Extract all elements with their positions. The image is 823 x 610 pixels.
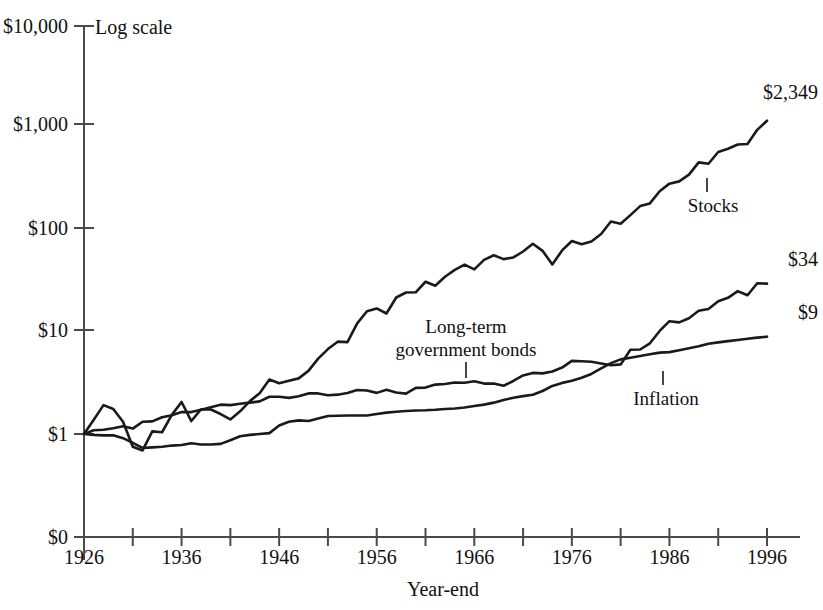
y-tick-label: $1,000 <box>13 113 68 135</box>
x-tick-label: 1946 <box>259 546 299 568</box>
annotation-stocks: Stocks <box>688 195 739 216</box>
annotation-bonds-line2: government bonds <box>396 339 537 360</box>
y-tick-label: $0 <box>48 526 68 548</box>
x-axis-tick-labels: 19261936194619561966197619861996 <box>64 546 787 568</box>
chart-container: $10,000$1,000$100$10$1$0 192619361946195… <box>0 0 823 610</box>
end-label-bonds: $34 <box>788 248 818 270</box>
y-tick-label: $10,000 <box>3 15 68 37</box>
x-tick-label: 1976 <box>552 546 592 568</box>
x-axis-title: Year-end <box>407 578 479 600</box>
y-tick-label: $100 <box>28 217 68 239</box>
annotation-bonds-line1: Long-term <box>425 316 506 337</box>
growth-of-a-dollar-chart: $10,000$1,000$100$10$1$0 192619361946195… <box>0 0 823 610</box>
y-tick-label: $10 <box>38 319 68 341</box>
x-tick-label: 1986 <box>649 546 689 568</box>
end-label-inflation: $9 <box>798 301 818 323</box>
x-tick-label: 1996 <box>747 546 787 568</box>
annotation-inflation: Inflation <box>633 388 699 409</box>
y-tick-label: $1 <box>48 423 68 445</box>
x-tick-label: 1926 <box>64 546 104 568</box>
x-tick-label: 1956 <box>357 546 397 568</box>
log-scale-note: Log scale <box>95 16 172 39</box>
end-label-stocks: $2,349 <box>763 81 818 103</box>
y-axis-tick-labels: $10,000$1,000$100$10$1$0 <box>3 15 68 548</box>
x-tick-label: 1966 <box>454 546 494 568</box>
x-tick-label: 1936 <box>162 546 202 568</box>
